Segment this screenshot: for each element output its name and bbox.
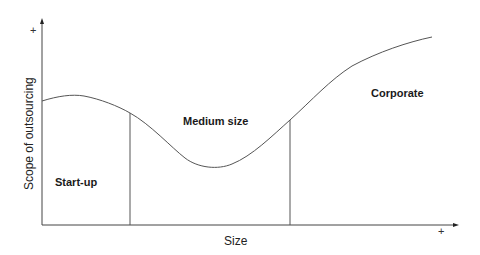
region-label-medium: Medium size <box>183 115 248 127</box>
region-label-corporate: Corporate <box>371 87 424 99</box>
scope-curve <box>42 37 432 167</box>
y-axis-plus-marker: + <box>30 24 36 36</box>
x-axis-arrow-icon <box>453 223 459 227</box>
x-axis-label: Size <box>224 234 247 248</box>
x-axis-plus-marker: + <box>438 225 444 237</box>
y-axis-arrow-icon <box>40 18 44 24</box>
region-label-startup: Start-up <box>55 176 97 188</box>
y-axis-label: Scope of outsourcing <box>22 77 36 190</box>
diagram-canvas <box>0 0 480 255</box>
